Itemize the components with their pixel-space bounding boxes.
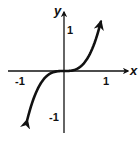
cubic-function-graph: y x 1 -1 1 -1 [0, 0, 140, 142]
y-tick-neg-1: -1 [49, 112, 59, 123]
graph-canvas [0, 0, 140, 142]
x-axis-label: x [130, 64, 137, 77]
x-tick-1: 1 [103, 76, 109, 87]
y-tick-1: 1 [67, 25, 73, 36]
y-axis-label: y [54, 4, 61, 17]
x-tick-neg-1: -1 [15, 76, 25, 87]
